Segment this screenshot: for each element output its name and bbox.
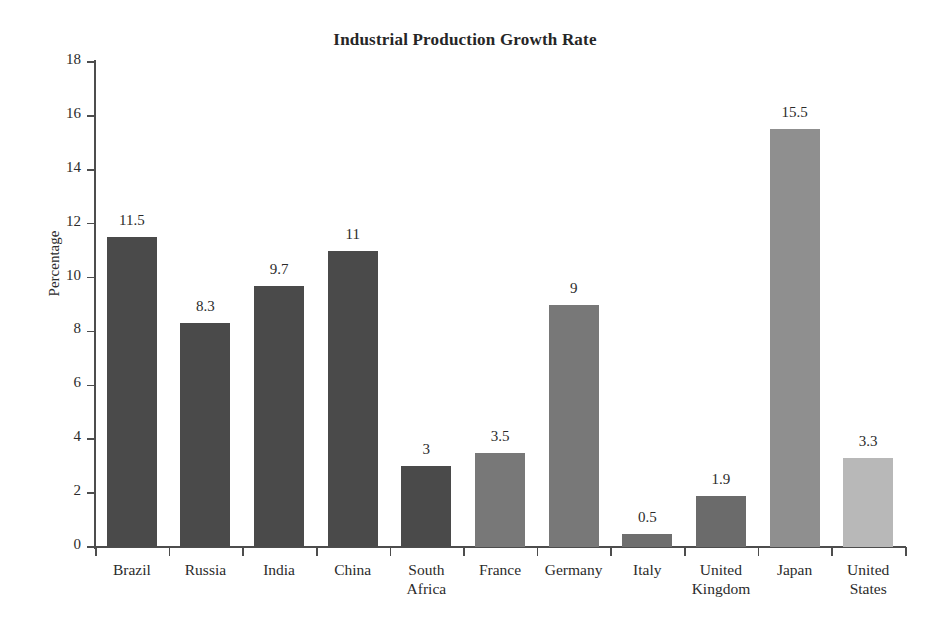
- y-tick-label: 16: [37, 105, 81, 122]
- x-tick-mark: [95, 547, 97, 556]
- bar-value-label: 3.3: [828, 433, 908, 450]
- bar: [770, 129, 820, 547]
- chart-title: Industrial Production Growth Rate: [0, 30, 930, 50]
- y-tick-label: 8: [37, 320, 81, 337]
- x-tick-mark: [684, 547, 686, 556]
- bar-value-label: 3.5: [460, 428, 540, 445]
- y-tick-mark: [87, 169, 95, 171]
- bar: [696, 496, 746, 547]
- bar-value-label: 15.5: [755, 104, 835, 121]
- bar-value-label: 11: [313, 226, 393, 243]
- bar: [622, 534, 672, 547]
- x-tick-mark: [242, 547, 244, 556]
- x-tick-mark: [390, 547, 392, 556]
- bar: [549, 305, 599, 548]
- x-tick-mark: [831, 547, 833, 556]
- y-tick-label: 14: [37, 159, 81, 176]
- y-tick-label: 12: [37, 213, 81, 230]
- x-tick-mark: [316, 547, 318, 556]
- bar-chart: Industrial Production Growth Rate Percen…: [0, 0, 930, 637]
- bar: [328, 251, 378, 547]
- y-tick-mark: [87, 546, 95, 548]
- y-tick-mark: [87, 385, 95, 387]
- x-tick-mark: [169, 547, 171, 556]
- y-tick-label: 4: [37, 428, 81, 445]
- y-tick-label: 2: [37, 482, 81, 499]
- x-tick-mark: [610, 547, 612, 556]
- y-tick-label: 6: [37, 374, 81, 391]
- y-tick-mark: [87, 115, 95, 117]
- bar-value-label: 9.7: [239, 261, 319, 278]
- bar: [254, 286, 304, 547]
- y-tick-label: 10: [37, 267, 81, 284]
- x-axis-category-label: United States: [813, 560, 923, 598]
- bar: [843, 458, 893, 547]
- bar-value-label: 0.5: [607, 509, 687, 526]
- x-tick-mark: [537, 547, 539, 556]
- bar-value-label: 9: [534, 280, 614, 297]
- y-tick-mark: [87, 492, 95, 494]
- y-tick-label: 0: [37, 536, 81, 553]
- x-tick-mark: [463, 547, 465, 556]
- y-tick-mark: [87, 61, 95, 63]
- bar-value-label: 1.9: [681, 471, 761, 488]
- x-tick-mark: [758, 547, 760, 556]
- bar-value-label: 8.3: [165, 298, 245, 315]
- bar-value-label: 11.5: [92, 212, 172, 229]
- bar: [475, 453, 525, 547]
- y-tick-mark: [87, 331, 95, 333]
- y-tick-mark: [87, 438, 95, 440]
- bar-value-label: 3: [386, 441, 466, 458]
- bar: [180, 323, 230, 547]
- y-tick-mark: [87, 277, 95, 279]
- bar: [401, 466, 451, 547]
- y-tick-label: 18: [37, 51, 81, 68]
- x-tick-mark: [905, 547, 907, 556]
- bar: [107, 237, 157, 547]
